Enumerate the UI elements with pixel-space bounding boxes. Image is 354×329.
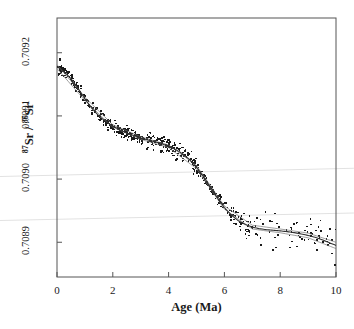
confidence-envelope: [57, 65, 336, 249]
sr-isotope-chart: 87Sr / 86Sr Age (Ma) 0.70890.70900.70910…: [0, 0, 354, 329]
x-tick-label: 2: [103, 284, 123, 296]
y-tick-label: 0.7090: [20, 155, 31, 201]
y-tick-label: 0.7091: [20, 91, 31, 137]
x-tick-label: 4: [159, 284, 179, 296]
plot-canvas: [0, 0, 354, 329]
x-axis-title: Age (Ma): [57, 300, 336, 315]
x-tick-label: 10: [326, 284, 346, 296]
plot-frame: [57, 18, 336, 277]
x-tick-label: 0: [47, 284, 67, 296]
fit-curve: [57, 67, 336, 246]
x-tick-label: 8: [270, 284, 290, 296]
y-tick-label: 0.7092: [20, 28, 31, 74]
x-tick-label: 6: [214, 284, 234, 296]
y-tick-label: 0.7089: [20, 218, 31, 264]
y-axis-title-sup-87: 87: [21, 145, 30, 153]
axis-ticks: [57, 53, 336, 277]
data-points: [57, 58, 337, 265]
